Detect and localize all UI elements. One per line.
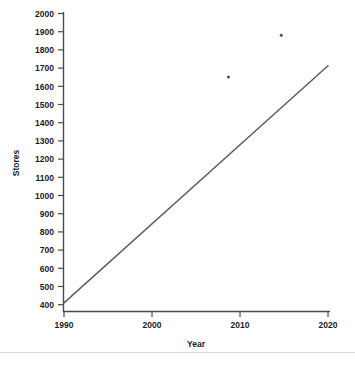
y-tick-label: 1600 — [35, 82, 54, 92]
x-tick-label: 2000 — [143, 320, 162, 330]
x-tick-label: 2020 — [319, 320, 338, 330]
y-tick-label: 1000 — [35, 191, 54, 201]
data-point — [280, 34, 283, 37]
data-point-group — [227, 34, 283, 79]
x-tick-group: 1990 2000 2010 2020 — [55, 312, 338, 331]
y-tick-label: 1900 — [35, 27, 54, 37]
x-tick-label: 1990 — [55, 320, 74, 330]
scatter-plot-figure: 2000 1900 1800 1700 1600 1500 1400 1300 … — [0, 0, 355, 366]
y-tick-label: 2000 — [35, 9, 54, 19]
y-tick-label: 1500 — [35, 100, 54, 110]
y-tick-label: 500 — [40, 282, 54, 292]
y-tick-label: 1800 — [35, 45, 54, 55]
x-tick-label: 2010 — [231, 320, 250, 330]
y-tick-label: 800 — [40, 227, 54, 237]
x-axis-title: Year — [187, 339, 206, 349]
y-tick-label: 1100 — [36, 173, 55, 183]
data-point — [227, 76, 230, 79]
y-tick-label: 700 — [40, 245, 54, 255]
y-tick-label: 1200 — [35, 154, 54, 164]
y-tick-label: 1700 — [35, 63, 54, 73]
y-tick-label: 600 — [40, 264, 54, 274]
y-tick-label: 1400 — [35, 118, 54, 128]
y-tick-label: 1300 — [35, 136, 54, 146]
y-tick-label: 900 — [40, 209, 54, 219]
y-tick-group: 2000 1900 1800 1700 1600 1500 1400 1300 … — [35, 9, 63, 310]
chart-canvas: 2000 1900 1800 1700 1600 1500 1400 1300 … — [0, 0, 355, 366]
trend-line — [64, 66, 328, 303]
y-axis-title: Stores — [11, 150, 21, 177]
y-tick-label: 400 — [40, 300, 54, 310]
